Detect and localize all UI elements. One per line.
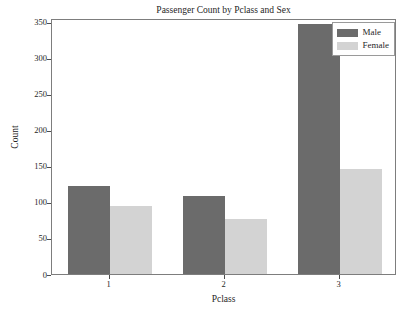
y-tick-label-50: 50	[7, 234, 47, 243]
chart-legend[interactable]: MaleFemale	[332, 22, 396, 56]
y-tick-label-300: 300	[7, 54, 47, 63]
bar-male-pclass-2	[183, 196, 225, 274]
legend-swatch-male-icon	[337, 29, 358, 37]
x-tick-label-2: 2	[204, 280, 244, 289]
y-tick-label-250: 250	[7, 90, 47, 99]
x-tick-mark-1	[109, 275, 110, 279]
legend-item-female[interactable]: Female	[337, 39, 390, 52]
y-tick-label-150: 150	[7, 162, 47, 171]
bar-female-pclass-1	[110, 206, 152, 274]
bar-female-pclass-2	[225, 219, 267, 274]
plot-area	[51, 19, 396, 275]
y-tick-label-200: 200	[7, 126, 47, 135]
y-axis-label: Count	[10, 107, 20, 167]
bar-male-pclass-1	[68, 186, 110, 274]
bar-female-pclass-3	[340, 169, 382, 274]
x-tick-label-1: 1	[89, 280, 129, 289]
legend-label-female: Female	[363, 41, 390, 50]
y-tick-label-100: 100	[7, 198, 47, 207]
legend-item-male[interactable]: Male	[337, 26, 390, 39]
chart-title: Passenger Count by Pclass and Sex	[51, 4, 396, 16]
y-tick-mark-0	[47, 275, 51, 276]
y-tick-label-0: 0	[7, 271, 47, 280]
bar-male-pclass-3	[298, 24, 340, 274]
legend-swatch-female-icon	[337, 42, 358, 50]
clipped-footer-text	[0, 312, 413, 318]
x-tick-mark-2	[224, 275, 225, 279]
x-axis-label: Pclass	[51, 294, 396, 305]
x-tick-mark-3	[339, 275, 340, 279]
y-tick-label-350: 350	[7, 18, 47, 27]
x-tick-label-3: 3	[319, 280, 359, 289]
legend-label-male: Male	[363, 28, 382, 37]
chart-figure: Passenger Count by Pclass and Sex Count …	[0, 0, 413, 318]
